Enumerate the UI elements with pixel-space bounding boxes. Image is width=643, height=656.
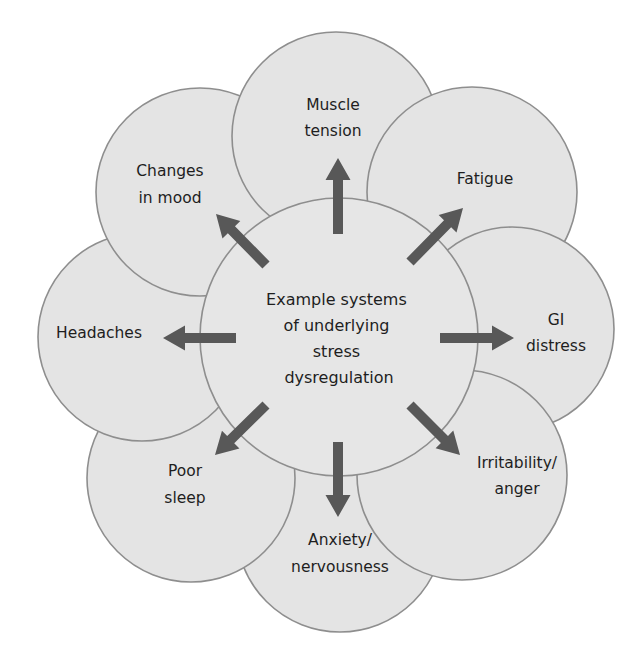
label-line: GI [548,311,565,329]
label-line: Anxiety/ [308,531,373,549]
label-headaches: Headaches [56,324,142,342]
center-label-line: of underlying [283,316,389,335]
label-line: nervousness [291,558,389,576]
label-line: anger [494,480,540,498]
center-label-line: stress [313,342,360,361]
stress-dysregulation-diagram: Example systems of underlying stress dys… [0,0,643,656]
label-line: Headaches [56,324,142,342]
label-line: tension [304,122,361,140]
label-line: Irritability/ [477,454,558,472]
label-line: sleep [164,489,205,507]
label-line: Poor [168,462,203,480]
label-line: Fatigue [457,170,514,188]
center-label-line: dysregulation [284,368,393,387]
label-fatigue: Fatigue [457,170,514,188]
label-line: Muscle [306,96,360,114]
center-label-line: Example systems [266,290,407,309]
label-line: in mood [139,189,202,207]
label-line: Changes [136,162,203,180]
label-line: distress [526,337,586,355]
